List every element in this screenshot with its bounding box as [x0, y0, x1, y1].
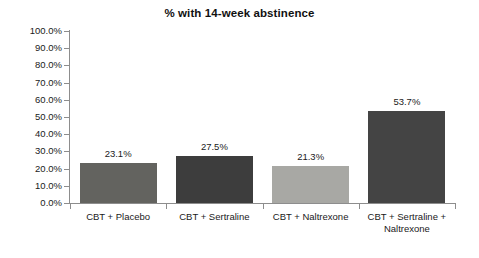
y-axis-tick-label: 30.0%	[6, 146, 62, 156]
x-axis-category-label: CBT + Sertraline	[166, 211, 262, 223]
bar[interactable]	[368, 111, 445, 203]
y-axis-tick-label: 40.0%	[6, 129, 62, 139]
y-axis-tick-label: 80.0%	[6, 60, 62, 70]
bar[interactable]	[272, 166, 349, 203]
x-axis-tick-mark	[455, 203, 456, 209]
bar[interactable]	[80, 163, 157, 203]
y-axis-tick-mark	[64, 203, 69, 204]
bar-value-label: 21.3%	[263, 152, 359, 162]
y-axis-tick-label: 70.0%	[6, 78, 62, 88]
x-axis-category-label: CBT + Naltrexone	[263, 211, 359, 223]
y-axis-tick-label: 20.0%	[6, 164, 62, 174]
bar-value-label: 53.7%	[359, 97, 455, 107]
y-axis-tick-mark	[64, 31, 69, 32]
bar-value-label: 27.5%	[166, 142, 262, 152]
y-axis-tick-mark	[64, 151, 69, 152]
y-axis-tick-mark	[64, 134, 69, 135]
x-axis-tick-mark	[263, 203, 264, 209]
y-axis-tick-label: 50.0%	[6, 112, 62, 122]
y-axis-tick-mark	[64, 65, 69, 66]
bar-value-label: 23.1%	[70, 149, 166, 159]
y-axis-tick-mark	[64, 186, 69, 187]
y-axis-tick-label: 60.0%	[6, 95, 62, 105]
x-axis-category-label: CBT + Sertraline + Naltrexone	[359, 211, 455, 234]
y-axis-tick-mark	[64, 100, 69, 101]
y-axis-tick-label: 10.0%	[6, 181, 62, 191]
y-axis-tick-mark	[64, 83, 69, 84]
y-axis-tick-mark	[64, 48, 69, 49]
x-axis-tick-mark	[166, 203, 167, 209]
y-axis-tick-label: 0.0%	[6, 198, 62, 208]
x-axis-category-label: CBT + Placebo	[70, 211, 166, 223]
chart-title: % with 14-week abstinence	[0, 7, 479, 19]
x-axis-tick-mark	[359, 203, 360, 209]
x-axis-tick-mark	[70, 203, 71, 209]
y-axis-tick-label: 90.0%	[6, 43, 62, 53]
bar-chart: % with 14-week abstinence 100.0%90.0%80.…	[0, 0, 479, 258]
y-axis-tick-mark	[64, 169, 69, 170]
y-axis-tick-label: 100.0%	[6, 26, 62, 36]
plot-area	[70, 31, 455, 203]
y-axis-tick-mark	[64, 117, 69, 118]
y-axis-ticks: 100.0%90.0%80.0%70.0%60.0%50.0%40.0%30.0…	[0, 0, 62, 258]
bar[interactable]	[176, 156, 253, 203]
